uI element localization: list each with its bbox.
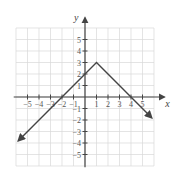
coordinate-plane: xy −5−4−3−2−112345−5−4−3−2−112345: [0, 0, 172, 179]
y-tick-label: −3: [72, 128, 81, 137]
x-tick-label: 4: [129, 100, 133, 109]
y-tick-label: 5: [77, 36, 81, 45]
x-axis-label: x: [164, 98, 170, 109]
x-tick-label: 2: [106, 100, 110, 109]
y-tick-label: 1: [77, 82, 81, 91]
y-tick-label: −1: [72, 105, 81, 114]
y-tick-label: 3: [77, 59, 81, 68]
x-tick-label: −2: [58, 100, 67, 109]
x-tick-label: 1: [95, 100, 99, 109]
axes: xy: [14, 12, 171, 168]
y-tick-label: −5: [72, 151, 81, 160]
y-tick-label: −2: [72, 116, 81, 125]
y-tick-label: −4: [72, 139, 81, 148]
x-tick-label: −5: [23, 100, 32, 109]
x-tick-label: −4: [35, 100, 44, 109]
x-tick-label: 3: [118, 100, 122, 109]
y-tick-label: 4: [77, 47, 81, 56]
y-axis-label: y: [73, 12, 79, 23]
